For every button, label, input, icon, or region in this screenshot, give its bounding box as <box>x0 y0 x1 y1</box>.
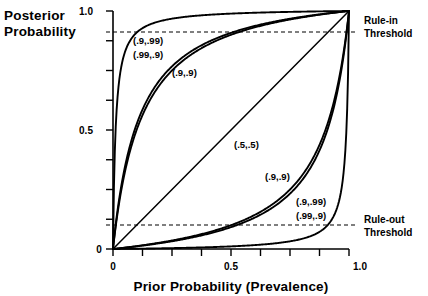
y-axis-label-line2: Probability <box>4 24 76 39</box>
rule-out-threshold-label-line1: Rule-out <box>364 214 405 225</box>
rule-out-threshold-label-line2: Threshold <box>364 227 412 238</box>
curve-label-lower-99-9: (.99,.9) <box>296 210 326 221</box>
x-tick-label-1.0: 1.0 <box>353 261 367 272</box>
posterior-probability-chart: Posterior Probability 1.0 0.5 0 0 0.5 1.… <box>0 0 428 296</box>
x-tick-label-0.5: 0.5 <box>224 261 238 272</box>
y-axis-label-line1: Posterior <box>4 8 66 23</box>
y-tick-label-0: 0 <box>96 244 102 255</box>
curve-label-upper-9-9: (.9,.9) <box>172 67 197 78</box>
curve-label-lower-9-9: (.9,.9) <box>265 171 290 182</box>
x-axis-label: Prior Probability (Prevalence) <box>133 279 328 294</box>
curve-label-diagonal: (.5,.5) <box>234 139 259 150</box>
x-tick-label-0: 0 <box>110 261 116 272</box>
y-tick-label-1.0: 1.0 <box>79 6 93 17</box>
curve-label-lower-9-99: (.9,.99) <box>296 196 326 207</box>
rule-in-threshold-label-line1: Rule-in <box>364 15 398 26</box>
curve-label-upper-99-9: (.99,.9) <box>133 49 163 60</box>
rule-in-threshold-label-line2: Threshold <box>364 28 412 39</box>
curve-label-upper-9-99: (.9,.99) <box>133 35 163 46</box>
y-tick-label-0.5: 0.5 <box>79 125 93 136</box>
figure-canvas: Posterior Probability 1.0 0.5 0 0 0.5 1.… <box>0 0 428 296</box>
